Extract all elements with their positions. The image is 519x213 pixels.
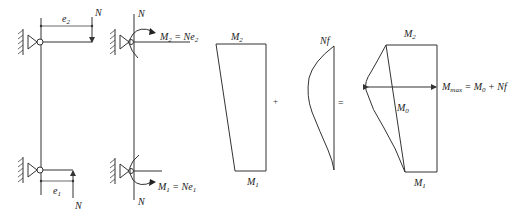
top-pin-support-icon — [18, 29, 43, 55]
mmax-equation-label: Mmax = M0 + Nf — [441, 81, 508, 94]
e2-label: e2 — [62, 13, 70, 26]
second-order-deflection-diagram: Nf — [308, 35, 334, 170]
m1-equation-label: M1 = Ne1 — [157, 181, 196, 194]
column-b: N M2 = Ne2 N M1 = Ne1 — [110, 8, 199, 207]
column-moment-diagram: e2 N e1 N — [0, 0, 519, 213]
m1-label: M1 — [246, 176, 259, 189]
bottom-load-n-label: N — [74, 200, 83, 211]
e1-label: e1 — [53, 185, 61, 198]
nf-label: Nf — [319, 35, 331, 46]
m2-label: M2 — [230, 31, 243, 44]
bottom-load-n-label-b: N — [137, 196, 146, 207]
first-order-moment-diagram: M2 M1 — [216, 31, 266, 189]
top-load-n-label-b: N — [137, 8, 146, 19]
total-moment-diagram: M2 M1 M0 Mmax = M0 + Nf — [366, 28, 508, 190]
column-a: e2 N e1 N — [18, 7, 103, 211]
m0-label: M0 — [396, 102, 409, 115]
top-load-n-label: N — [94, 7, 103, 18]
total-m1-label: M1 — [413, 177, 426, 190]
equals-operator: = — [338, 97, 344, 108]
bottom-pin-support-icon — [18, 157, 43, 183]
total-m2-label: M2 — [403, 28, 416, 41]
plus-operator: + — [273, 96, 278, 106]
